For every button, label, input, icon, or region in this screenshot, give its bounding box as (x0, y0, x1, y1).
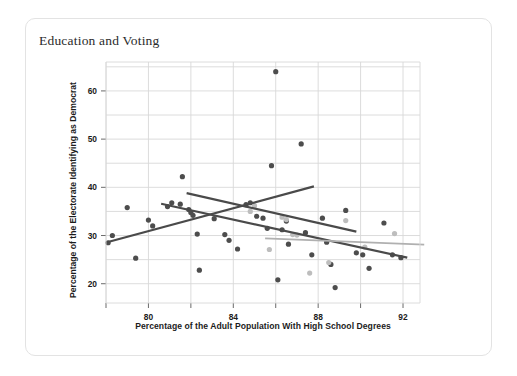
data-point (197, 268, 202, 273)
y-tick-label: 20 (88, 279, 98, 289)
y-tick-label: 60 (88, 86, 98, 96)
data-point (299, 141, 304, 146)
x-axis-title: Percentage of the Adult Population With … (108, 321, 418, 331)
data-point (343, 218, 348, 223)
data-point (392, 231, 397, 236)
data-point (226, 238, 231, 243)
y-axis-title: Percentage of the Electorate Identifying… (68, 65, 78, 315)
data-point (381, 220, 386, 225)
data-point (260, 216, 265, 221)
screenshot-root: Education and Voting 203040506080848892 … (0, 0, 517, 376)
data-point (360, 252, 365, 257)
data-point (222, 232, 227, 237)
data-point (267, 247, 272, 252)
data-point (343, 208, 348, 213)
data-point (333, 285, 338, 290)
data-points (106, 69, 404, 290)
data-point (326, 260, 331, 265)
data-point (269, 163, 274, 168)
data-point (284, 217, 289, 222)
data-point (248, 209, 253, 214)
data-point (307, 271, 312, 276)
data-point (178, 202, 183, 207)
data-point (366, 266, 371, 271)
data-point (133, 256, 138, 261)
grid-lines (106, 62, 420, 303)
y-tick-label: 50 (88, 134, 98, 144)
y-tick-label: 40 (88, 182, 98, 192)
data-point (273, 69, 278, 74)
data-point (180, 174, 185, 179)
data-point (309, 252, 314, 257)
data-point (125, 205, 130, 210)
data-point (150, 223, 155, 228)
data-point (286, 242, 291, 247)
y-tick-label: 30 (88, 231, 98, 241)
data-point (195, 231, 200, 236)
trend-lines (107, 186, 424, 257)
series-dark-points (106, 69, 404, 290)
data-point (320, 216, 325, 221)
data-point (110, 233, 115, 238)
data-point (354, 250, 359, 255)
axis-spines (106, 62, 420, 303)
data-point (275, 277, 280, 282)
data-point (254, 214, 259, 219)
data-point (146, 218, 151, 223)
data-point (235, 246, 240, 251)
data-point (190, 213, 195, 218)
